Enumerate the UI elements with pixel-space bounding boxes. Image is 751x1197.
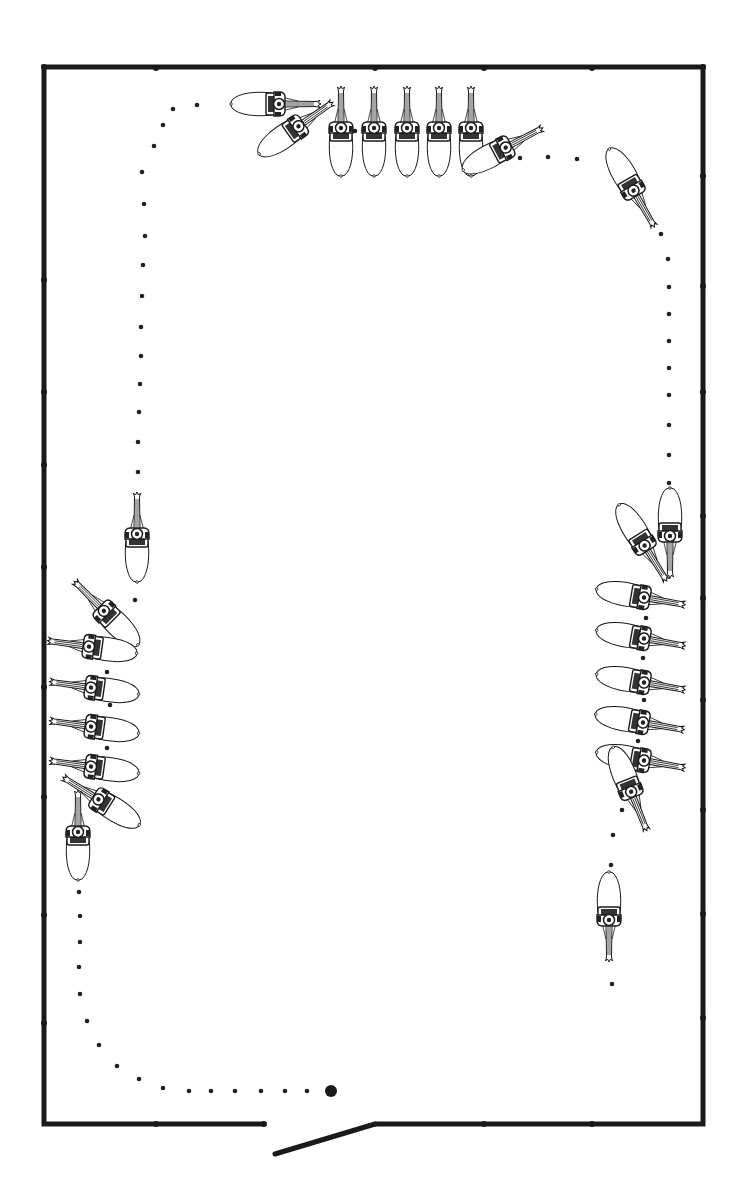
start-point-marker [325, 1085, 337, 1097]
track-dot [136, 470, 141, 475]
track-dot [78, 992, 83, 997]
track-dot [171, 107, 176, 112]
fence-marker [41, 389, 47, 395]
fence-marker [41, 794, 47, 800]
track-dot [140, 294, 145, 299]
track-dot [141, 263, 146, 268]
track-dot [667, 481, 672, 486]
track-dot [620, 808, 625, 813]
track-dot [667, 285, 672, 290]
horse-rider-icon [597, 871, 621, 962]
fence-marker [41, 564, 47, 570]
track-dot [137, 410, 142, 415]
fence-marker [700, 389, 706, 395]
horse-rider-icon [593, 577, 687, 616]
track-dot [575, 157, 580, 162]
track-dot [611, 833, 616, 838]
track-dot [518, 156, 523, 161]
fence-marker [700, 697, 706, 703]
track-dot [85, 1019, 90, 1024]
track-dot [140, 170, 145, 175]
fence-marker [372, 65, 378, 71]
horse-rider-icon [329, 86, 353, 177]
track-dot [77, 965, 82, 970]
horse-rider-icon [125, 492, 149, 583]
fence-marker [41, 912, 47, 918]
track-dots [77, 103, 672, 1097]
horse-rider-icon [593, 662, 687, 701]
fence-marker [589, 65, 595, 71]
fence-marker [41, 462, 47, 468]
fence-marker [153, 1121, 159, 1127]
fence-marker [700, 807, 706, 813]
horse-rider-icon [48, 709, 142, 745]
track-dot [187, 1089, 192, 1094]
track-dot [152, 144, 157, 149]
track-dot [133, 598, 138, 603]
arena-diagram [0, 0, 751, 1197]
fence-marker [481, 1121, 487, 1127]
track-dot [139, 325, 144, 330]
track-dot [105, 670, 110, 675]
track-dot [138, 382, 143, 387]
track-dot [667, 312, 672, 317]
fence-marker [41, 64, 47, 70]
track-dot [610, 982, 615, 987]
track-dot [546, 155, 551, 160]
track-dot [136, 440, 141, 445]
track-dot [641, 656, 646, 661]
fence-marker [700, 1015, 706, 1021]
track-dot [137, 1077, 142, 1082]
track-dot [667, 393, 672, 398]
track-dot [666, 257, 671, 262]
track-dot [139, 354, 144, 359]
track-dot [195, 103, 200, 108]
track-dot [161, 1086, 166, 1091]
horse-riders [46, 86, 688, 962]
horse-rider-icon [230, 92, 321, 116]
track-dot [644, 616, 649, 621]
track-dot [233, 1089, 238, 1094]
track-dot [97, 1043, 102, 1048]
horse-rider-icon [593, 740, 687, 779]
fence-marker [589, 1121, 595, 1127]
track-dot [667, 366, 672, 371]
track-dot [642, 698, 647, 703]
track-dot [77, 890, 82, 895]
horse-rider-icon [658, 487, 682, 578]
track-dot [142, 202, 147, 207]
fence-marker [700, 64, 706, 70]
track-dot [636, 739, 641, 744]
horse-rider-icon [395, 86, 419, 177]
track-dot [108, 703, 113, 708]
fence-marker [700, 595, 706, 601]
fence-marker [41, 277, 47, 283]
track-dot [667, 453, 672, 458]
horse-rider-icon [592, 702, 686, 741]
track-dot [161, 123, 166, 128]
track-dot [283, 1089, 288, 1094]
horse-rider-icon [427, 86, 451, 177]
track-dot [78, 940, 83, 945]
horse-rider-icon [362, 86, 386, 177]
track-dot [115, 1064, 120, 1069]
track-dot [105, 746, 110, 751]
track-dot [78, 914, 83, 919]
fence-marker [41, 684, 47, 690]
track-dot [667, 339, 672, 344]
fence-marker [700, 283, 706, 289]
horse-rider-icon [48, 670, 142, 706]
track-dot [209, 1089, 214, 1094]
track-dot [667, 423, 672, 428]
fence-marker [41, 1020, 47, 1026]
fence-marker [700, 173, 706, 179]
track-dot [659, 232, 664, 237]
fence-marker [481, 65, 487, 71]
fence-marker [700, 911, 706, 917]
arena-gate [275, 1124, 375, 1154]
fence-marker [700, 513, 706, 519]
horse-rider-icon [598, 142, 664, 233]
arena-fence [44, 67, 703, 1154]
track-dot [259, 1089, 264, 1094]
track-dot [143, 234, 148, 239]
